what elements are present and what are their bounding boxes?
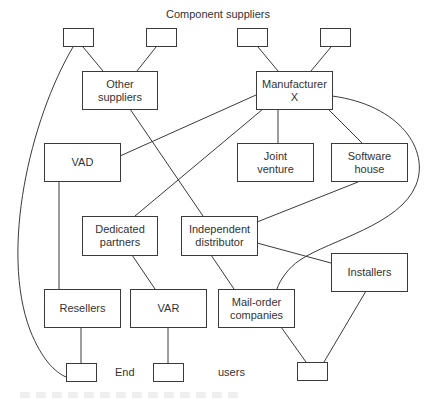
users-label: users (218, 366, 245, 378)
node-label: Joint (257, 150, 294, 163)
edge-distributor-installers (257, 243, 331, 263)
node-label: Resellers (60, 302, 106, 315)
node-manufacturer-x: Manufacturer X (256, 71, 333, 110)
edge-distributor-mailorder (211, 255, 234, 289)
node-joint-venture: Joint venture (237, 143, 314, 182)
node-label: suppliers (98, 91, 142, 104)
node-label: distributor (189, 236, 250, 249)
node-label: Software (348, 150, 391, 163)
node-label: Manufacturer (262, 78, 327, 91)
component-supplier-box-2 (146, 28, 177, 47)
node-label: venture (257, 163, 294, 176)
node-dedicated-partners: Dedicated partners (82, 216, 158, 256)
node-independent-distributor: Independent distributor (181, 216, 258, 256)
connector-lines (0, 0, 431, 399)
edge-installers-enduser3 (324, 291, 366, 362)
node-label: partners (95, 236, 145, 249)
edge-mailorder-enduser3 (281, 327, 306, 362)
node-label: X (262, 91, 327, 104)
edge-supplier3-manufacturer (258, 47, 278, 71)
node-label: Dedicated (95, 223, 145, 236)
edge-dedicated-var (132, 255, 155, 289)
node-label: Other (98, 78, 142, 91)
component-supplier-box-1 (63, 28, 94, 47)
node-resellers: Resellers (44, 289, 121, 328)
edge-supplier1-other (83, 47, 103, 71)
node-label: companies (230, 309, 283, 322)
component-suppliers-title: Component suppliers (166, 8, 270, 20)
node-label: VAR (158, 302, 180, 315)
end-user-box-3 (297, 362, 328, 381)
end-user-box-2 (153, 363, 184, 382)
node-installers: Installers (331, 253, 408, 292)
edge-other-distributor (130, 109, 203, 216)
edge-manufacturer-software (328, 109, 362, 143)
faint-bleedthrough-text (20, 392, 240, 398)
end-label: End (115, 366, 135, 378)
node-label: house (348, 163, 391, 176)
node-label: Mail-order (230, 296, 283, 309)
node-other-suppliers: Other suppliers (82, 71, 158, 110)
distribution-channel-diagram: Component suppliers Other suppliers Manu… (0, 0, 431, 399)
node-vad: VAD (44, 143, 121, 182)
component-supplier-box-4 (320, 28, 351, 47)
node-var: VAR (130, 289, 207, 328)
node-label: Independent (189, 223, 250, 236)
edge-software-distributor (257, 182, 358, 222)
node-label: VAD (72, 156, 94, 169)
node-label: Installers (347, 266, 391, 279)
end-user-box-1 (66, 363, 97, 382)
edge-supplier2-other (137, 47, 156, 71)
component-supplier-box-3 (237, 28, 268, 47)
node-software-house: Software house (331, 143, 408, 182)
edge-supplier4-manufacturer (311, 47, 331, 71)
node-mail-order-companies: Mail-order companies (218, 289, 295, 328)
